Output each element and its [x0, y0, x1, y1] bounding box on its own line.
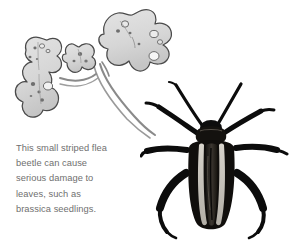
leg-hind-right — [237, 173, 263, 208]
caption-line: beetle can cause — [16, 156, 136, 171]
leg-front-left-tarsus — [146, 103, 159, 107]
antenna-left-tip — [169, 82, 176, 85]
leaf-upper-right — [99, 10, 172, 71]
illustration-page: This small striped flea beetle can cause… — [0, 0, 289, 246]
feeding-hole — [73, 60, 76, 63]
caption-line: This small striped flea — [16, 141, 136, 156]
leg-hind-left — [160, 173, 186, 208]
striped-flea-beetle-photo — [140, 78, 289, 240]
leg-hind-left-tibia — [160, 208, 167, 232]
feeding-hole — [150, 30, 158, 37]
feeding-hole — [29, 56, 32, 59]
stem-left-branch — [60, 74, 96, 81]
caption-text-block: This small striped flea beetle can cause… — [16, 141, 136, 217]
feeding-hole — [33, 47, 36, 50]
leg-hind-left-tarsus — [167, 232, 176, 238]
leg-front-right — [224, 111, 261, 133]
caption-line: serious damage to — [16, 171, 136, 186]
leaf-middle — [62, 44, 95, 73]
feeding-hole — [30, 95, 33, 97]
feeding-hole — [149, 52, 159, 61]
feeding-hole — [84, 60, 87, 63]
feeding-hole — [39, 44, 44, 48]
leg-hind-right-tibia — [258, 208, 264, 232]
caption-line: brassica seedlings. — [16, 202, 136, 217]
leg-middle-left — [147, 149, 187, 151]
feeding-hole — [31, 82, 35, 86]
feeding-hole — [43, 82, 52, 90]
feeding-hole — [138, 43, 141, 45]
leaf-left-outline — [15, 37, 61, 117]
leg-hind-right-tarsus — [249, 232, 258, 238]
leg-front-right-tarsus — [261, 109, 274, 111]
caption-line: leaves, such as — [16, 187, 136, 202]
leg-middle-right — [236, 147, 277, 150]
feeding-hole — [46, 49, 50, 52]
leaf-middle-outline — [62, 44, 95, 73]
feeding-hole — [36, 58, 38, 60]
feeding-hole — [157, 40, 162, 45]
leaf-left — [15, 37, 61, 117]
antenna-right — [218, 84, 241, 124]
feeding-hole — [116, 29, 120, 32]
